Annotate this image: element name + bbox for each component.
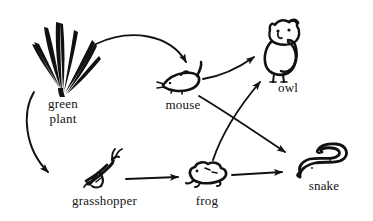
grass-tuft-icon [32, 22, 101, 97]
label-green-plant: green plant [33, 96, 93, 126]
label-frog: frog [185, 193, 229, 208]
label-mouse: mouse [155, 97, 211, 112]
grasshopper-icon [84, 149, 122, 188]
owl-icon [265, 20, 299, 82]
snake-icon [297, 144, 346, 177]
label-grasshopper: grasshopper [52, 193, 157, 208]
arrow-grasshopper-to-frog [126, 177, 178, 179]
mouse-icon [157, 62, 201, 94]
frog-icon [186, 162, 226, 187]
arrow-plant-to-mouse [96, 35, 186, 62]
food-web-diagram: green plant mouse owl grasshopper frog s… [0, 0, 373, 221]
arrow-frog-to-snake [232, 172, 282, 175]
label-owl: owl [268, 80, 308, 95]
arrow-mouse-to-owl [203, 57, 254, 79]
arrow-frog-to-owl [213, 82, 260, 160]
label-snake: snake [297, 178, 351, 193]
